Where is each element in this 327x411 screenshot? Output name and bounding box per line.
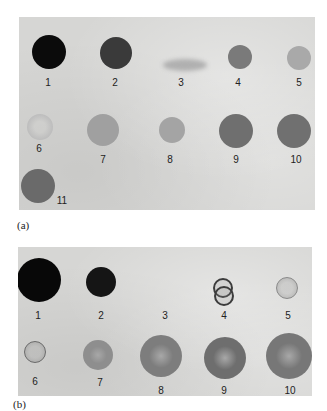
spot-label-2: 2 — [98, 310, 104, 321]
spot-label-2: 2 — [112, 77, 118, 88]
spot-6 — [24, 341, 46, 363]
spot-2 — [100, 37, 132, 69]
spot-1 — [32, 35, 66, 69]
spot-5 — [287, 46, 311, 70]
spot-9 — [204, 337, 246, 379]
spot-label-5: 5 — [285, 310, 291, 321]
spot-10 — [277, 114, 311, 148]
spot-label-3: 3 — [178, 77, 184, 88]
spot-7 — [83, 340, 113, 370]
spot-2 — [86, 267, 116, 297]
spot-label-3: 3 — [162, 310, 168, 321]
spot-6 — [27, 114, 53, 140]
spot-label-11: 11 — [57, 195, 67, 206]
spot-4 — [228, 45, 252, 69]
panel-a-image: 1234567891011 — [19, 17, 315, 210]
spot-label-9: 9 — [221, 385, 227, 396]
spot-3-streak — [163, 59, 207, 71]
spot-label-7: 7 — [97, 377, 103, 388]
spot-label-10: 10 — [284, 385, 295, 396]
spot-7 — [87, 114, 119, 146]
spot-label-10: 10 — [290, 154, 301, 165]
spot-label-8: 8 — [158, 385, 164, 396]
spot-label-1: 1 — [35, 310, 41, 321]
spot-1 — [18, 258, 61, 302]
panel-a-caption: (a) — [17, 219, 29, 231]
spot-label-8: 8 — [167, 154, 173, 165]
spot-8 — [159, 117, 185, 143]
spot-label-1: 1 — [45, 77, 51, 88]
spot-label-9: 9 — [233, 154, 239, 165]
spot-label-7: 7 — [100, 154, 106, 165]
spot-11 — [21, 169, 55, 203]
spot-label-4: 4 — [221, 310, 227, 321]
spot-8 — [140, 335, 182, 377]
spot-4 — [214, 286, 234, 306]
panel-b-image: 12345678910 — [18, 247, 312, 396]
spot-label-5: 5 — [296, 77, 302, 88]
spot-label-4: 4 — [235, 77, 241, 88]
panel-b-caption: (b) — [13, 398, 26, 410]
spot-10 — [266, 333, 312, 379]
spot-label-6: 6 — [36, 143, 42, 154]
spot-label-6: 6 — [32, 376, 38, 387]
spot-5 — [276, 277, 298, 299]
spot-9 — [219, 114, 253, 148]
